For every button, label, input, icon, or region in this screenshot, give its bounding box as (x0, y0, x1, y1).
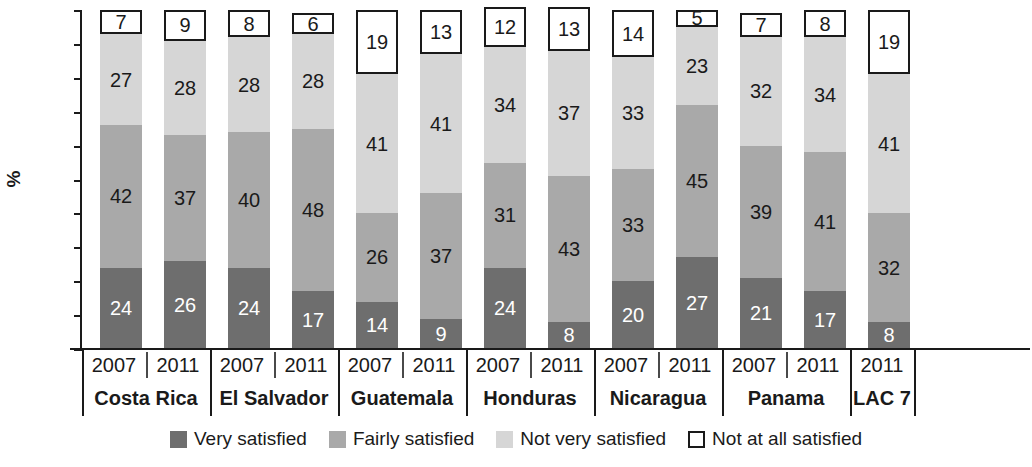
x-axis-group-separator (914, 350, 916, 416)
bar-segment: 26 (164, 261, 206, 349)
x-axis-year-separator (402, 352, 404, 378)
bar-segment: 17 (804, 291, 846, 349)
bar-segment-value: 28 (238, 75, 260, 95)
legend-label: Not at all satisfied (712, 428, 862, 450)
x-axis-country-label: Costa Rica (82, 382, 210, 414)
bar-segment: 20 (612, 281, 654, 349)
x-axis-year-label: 2011 (530, 350, 594, 380)
bar-segment-value: 43 (558, 239, 580, 259)
bar-segment: 32 (868, 213, 910, 321)
bar-segment-value: 33 (622, 103, 644, 123)
bar-segment: 8 (228, 10, 270, 37)
y-axis-tick-mark (74, 146, 82, 148)
bar-segment: 48 (292, 129, 334, 292)
bar-segment-value: 14 (366, 315, 388, 335)
bar-segment-value: 7 (755, 15, 766, 35)
x-axis-country-label: Honduras (466, 382, 594, 414)
bar-segment-value: 24 (494, 298, 516, 318)
bar-segment-value: 19 (878, 32, 900, 52)
bar-stack: 8324119 (868, 10, 910, 349)
y-axis-tick-mark (74, 315, 82, 317)
bar-segment-value: 37 (174, 188, 196, 208)
bar-segment-value: 24 (238, 298, 260, 318)
bar-stack: 8433713 (548, 10, 590, 349)
bar-segment: 8 (868, 322, 910, 349)
x-axis-group-separator (594, 350, 596, 416)
bar-segment-value: 41 (366, 134, 388, 154)
bar-segment-value: 21 (750, 303, 772, 323)
y-axis-tick-mark (74, 281, 82, 283)
bar-segment: 9 (164, 10, 206, 41)
x-axis-year-label: 2007 (338, 350, 402, 380)
bar-segment: 7 (100, 10, 142, 34)
bar-segment: 19 (356, 10, 398, 74)
bar-stack: 20333314 (612, 10, 654, 349)
x-axis-year-separator (658, 352, 660, 378)
x-axis-group-separator (82, 350, 84, 416)
legend-swatch-icon (688, 431, 705, 448)
x-axis-year-label: 2011 (658, 350, 722, 380)
legend-item: Not at all satisfied (688, 428, 862, 450)
legend-item: Fairly satisfied (329, 428, 474, 450)
bar-segment-value: 37 (558, 103, 580, 123)
bar-stack: 1748286 (292, 10, 334, 349)
bar-segment: 45 (676, 105, 718, 258)
bar-segment: 6 (292, 13, 334, 33)
bar-segment-value: 33 (622, 215, 644, 235)
bar-segment: 41 (804, 152, 846, 291)
bar-segment: 40 (228, 132, 270, 268)
bar-segment-value: 45 (686, 171, 708, 191)
bar-segment-value: 39 (750, 202, 772, 222)
bar-segment-value: 6 (307, 14, 318, 34)
bar-segment: 24 (228, 268, 270, 349)
x-axis-year-label: 2007 (466, 350, 530, 380)
bar-segment: 14 (356, 302, 398, 349)
bar-stack: 2442277 (100, 10, 142, 349)
bar-segment-value: 8 (563, 325, 574, 345)
bar-segment-value: 37 (430, 246, 452, 266)
bar-segment: 7 (740, 13, 782, 37)
bar-stack: 9374113 (420, 10, 462, 349)
bar-segment-value: 19 (366, 32, 388, 52)
bar-segment: 42 (100, 125, 142, 267)
bar-segment: 28 (228, 37, 270, 132)
y-axis-tick-mark (74, 10, 82, 12)
x-axis-country-label: Guatemala (338, 382, 466, 414)
bar-segment-value: 14 (622, 24, 644, 44)
bar-segment: 39 (740, 146, 782, 278)
bar-segment: 12 (484, 7, 526, 48)
legend-item: Not very satisfied (496, 428, 666, 450)
bar-segment-value: 17 (302, 310, 324, 330)
bar-segment: 37 (548, 51, 590, 176)
bar-stack: 24313412 (484, 10, 526, 349)
stacked-bar-chart: % 1009080706050403020100 244227726372892… (0, 0, 1032, 467)
bar-segment-value: 28 (174, 78, 196, 98)
bar-segment-value: 17 (814, 310, 836, 330)
bar-stack: 14264119 (356, 10, 398, 349)
bar-segment: 24 (484, 268, 526, 349)
bar-segment: 23 (676, 27, 718, 105)
x-axis-country-label: El Salvador (210, 382, 338, 414)
legend-label: Fairly satisfied (353, 428, 474, 450)
legend-label: Very satisfied (194, 428, 307, 450)
x-axis-year-label: 2011 (402, 350, 466, 380)
x-axis-group-separator (210, 350, 212, 416)
x-axis-group-separator (466, 350, 468, 416)
bar-segment-value: 41 (878, 134, 900, 154)
y-axis-title: % (3, 171, 25, 188)
x-axis-group-separator (722, 350, 724, 416)
bar-segment-value: 20 (622, 305, 644, 325)
bar-segment-value: 40 (238, 190, 260, 210)
bar-stack: 1741348 (804, 10, 846, 349)
bar-segment: 33 (612, 57, 654, 169)
x-axis-year-label: 2011 (850, 350, 914, 380)
bar-segment-value: 28 (302, 71, 324, 91)
bar-segment-value: 26 (174, 295, 196, 315)
y-axis-tick-mark (74, 213, 82, 215)
legend-swatch-icon (496, 431, 513, 448)
y-axis-tick-mark (74, 44, 82, 46)
bar-stack: 2440288 (228, 10, 270, 349)
bar-segment-value: 32 (878, 258, 900, 278)
plot-area: 2442277263728924402881748286142641199374… (82, 10, 1030, 349)
bar-segment-value: 24 (110, 298, 132, 318)
